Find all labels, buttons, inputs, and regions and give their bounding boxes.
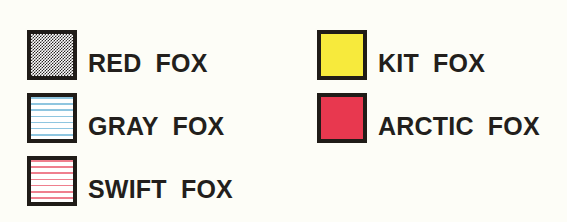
- swatch-pattern-blue-lines: [31, 97, 73, 139]
- legend-item-kit-fox[interactable]: KIT FOX: [317, 24, 485, 80]
- legend-label-kit-fox: KIT FOX: [378, 51, 485, 76]
- swatch-arctic-fox: [317, 93, 367, 143]
- swatch-red-fox: [27, 30, 77, 80]
- swatch-pattern-solid-yellow: [321, 34, 363, 76]
- swatch-pattern-stipple: [31, 34, 73, 76]
- swatch-gray-fox: [27, 93, 77, 143]
- map-legend: RED FOX GRAY FOX SWIFT FOX KIT FOX: [0, 0, 567, 222]
- legend-label-swift-fox: SWIFT FOX: [88, 177, 233, 202]
- swatch-pattern-solid-red: [321, 97, 363, 139]
- legend-column-left: RED FOX GRAY FOX SWIFT FOX: [0, 0, 300, 222]
- swatch-swift-fox: [27, 156, 77, 206]
- legend-item-gray-fox[interactable]: GRAY FOX: [27, 87, 224, 143]
- legend-item-arctic-fox[interactable]: ARCTIC FOX: [317, 87, 540, 143]
- legend-column-right: KIT FOX ARCTIC FOX: [290, 0, 567, 222]
- legend-item-red-fox[interactable]: RED FOX: [27, 24, 208, 80]
- swatch-pattern-pink-lines: [31, 160, 73, 202]
- legend-label-gray-fox: GRAY FOX: [88, 114, 224, 139]
- swatch-kit-fox: [317, 30, 367, 80]
- legend-label-red-fox: RED FOX: [88, 51, 208, 76]
- legend-item-swift-fox[interactable]: SWIFT FOX: [27, 150, 233, 206]
- legend-label-arctic-fox: ARCTIC FOX: [378, 114, 540, 139]
